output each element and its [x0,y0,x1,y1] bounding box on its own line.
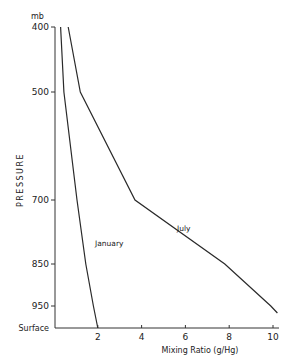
y-tick-label-500: 500 [32,87,49,97]
y-tick-label-surface: Surface [19,324,50,333]
x-tick-label-2: 2 [95,332,101,342]
y-tick-label-400: 400 [32,22,49,32]
mixing-ratio-chart: 400500700850950Surface 246810 mb PRESSUR… [0,0,287,362]
y-unit-label: mb [31,12,44,21]
x-tick-label-6: 6 [183,332,189,342]
y-tick-label-950: 950 [32,301,49,311]
y-tick-label-850: 850 [32,259,49,269]
series-line-july [68,27,277,313]
x-tick-label-4: 4 [139,332,145,342]
series-line-january [61,27,98,328]
x-tick-label-8: 8 [226,332,232,342]
y-tick-label-700: 700 [32,195,49,205]
series-label-july: July [176,224,191,233]
series-group [61,27,278,328]
x-axis-title: Mixing Ratio (g/Hg) [162,346,239,355]
x-tick-label-10: 10 [267,332,279,342]
series-label-january: January [94,239,124,248]
y-axis-title: PRESSURE [16,153,25,207]
